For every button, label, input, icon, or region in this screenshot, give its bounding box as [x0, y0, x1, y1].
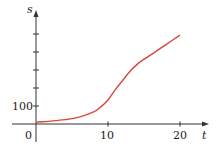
x-axis-label: t: [202, 130, 206, 141]
data-line: [36, 35, 180, 122]
y-tick-label-100: 100: [12, 101, 33, 112]
x-tick-label-10: 10: [100, 130, 114, 141]
y-axis-label: s: [27, 4, 33, 15]
chart: s t 0 100 10 20: [0, 0, 217, 151]
x-tick-label-20: 20: [173, 130, 187, 141]
origin-label: 0: [25, 130, 32, 141]
